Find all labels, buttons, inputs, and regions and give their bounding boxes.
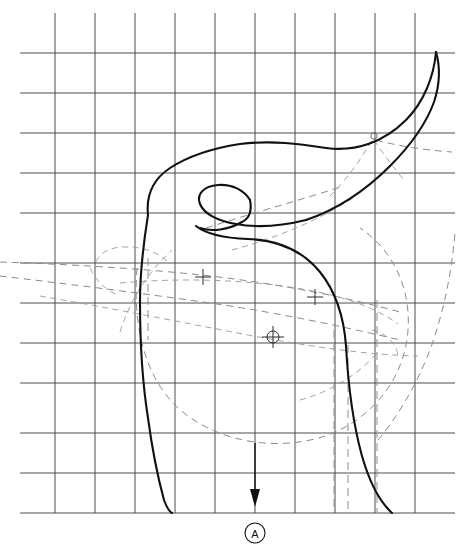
construction-marker-branch-down bbox=[374, 140, 404, 180]
grid-horizontal-lines bbox=[20, 53, 455, 513]
construction-band-upper bbox=[0, 262, 400, 312]
profile-outer-horn bbox=[148, 52, 436, 215]
profile-body-dome bbox=[196, 226, 346, 346]
small-circle-upper-right bbox=[371, 133, 377, 139]
construction-upper-left-corner bbox=[95, 247, 168, 272]
construction-marker-branch-right bbox=[376, 140, 452, 152]
construction-lower-arc bbox=[136, 228, 408, 444]
construction-band-return bbox=[120, 280, 398, 324]
construction-lower-right-rise bbox=[300, 352, 378, 400]
construction-geometry bbox=[0, 140, 455, 512]
cross-marker-left bbox=[195, 269, 211, 285]
section-arrow-head bbox=[250, 489, 260, 507]
section-label-text: A bbox=[251, 528, 259, 540]
section-marker-a: A bbox=[245, 443, 265, 543]
technical-drawing-canvas: A bbox=[0, 0, 468, 555]
drawing-svg: A bbox=[0, 0, 468, 555]
profile-body-right-flank bbox=[346, 346, 392, 513]
profile-body-left-flank bbox=[140, 215, 172, 513]
profile-horn-tip bbox=[306, 52, 439, 220]
circle-crosshair-center bbox=[262, 326, 284, 348]
small-circle-ring bbox=[371, 133, 377, 139]
construction-left-lower-rise bbox=[120, 250, 172, 332]
main-profile bbox=[140, 52, 439, 513]
construction-left-taper bbox=[90, 268, 120, 296]
reference-grid bbox=[20, 13, 455, 513]
